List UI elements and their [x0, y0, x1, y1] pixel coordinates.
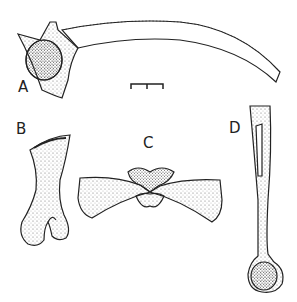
panel-label-b: B	[16, 122, 26, 137]
bone-illustration-figure: A B C D	[0, 0, 297, 302]
panel-label-d: D	[229, 121, 241, 136]
bone-d	[248, 106, 283, 292]
panel-label-a: A	[18, 80, 28, 95]
panel-label-c: C	[143, 136, 153, 151]
bone-b	[21, 135, 70, 245]
scale-bar	[131, 84, 163, 89]
bone-a	[18, 21, 280, 98]
bone-c	[78, 168, 222, 222]
